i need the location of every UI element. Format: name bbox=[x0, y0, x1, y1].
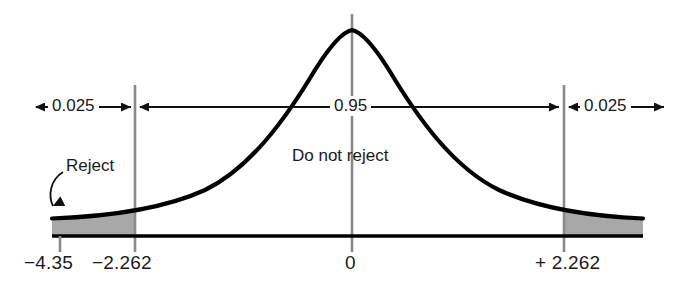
right-tail-area-label: 0.025 bbox=[580, 96, 631, 116]
do-not-reject-label: Do not reject bbox=[292, 146, 388, 166]
right-rejection-region bbox=[52, 30, 643, 236]
center-area-label: 0.95 bbox=[330, 96, 371, 116]
reject-leader-arrow bbox=[50, 172, 63, 206]
axis-tick-label-test-statistic: −4.35 bbox=[24, 252, 73, 274]
left-rejection-region bbox=[52, 30, 643, 236]
axis-tick-label-mean: 0 bbox=[345, 252, 356, 274]
normal-curve bbox=[52, 30, 643, 219]
left-tail-area-label: 0.025 bbox=[48, 96, 99, 116]
axis-tick-label-lower-critical-value: −2.262 bbox=[92, 252, 152, 274]
distribution-figure: 0.025 0.95 0.025 Do not reject Reject −4… bbox=[0, 0, 691, 292]
reject-label: Reject bbox=[66, 156, 114, 176]
axis-tick-label-upper-critical-value: + 2.262 bbox=[535, 252, 600, 274]
